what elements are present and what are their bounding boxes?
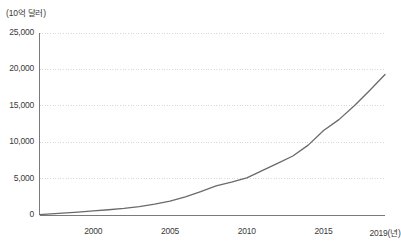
x-axis-tick-label: 2010 (238, 226, 256, 236)
y-axis-tick-label: 0 (0, 209, 34, 219)
data-line-group (40, 75, 386, 215)
y-axis-tick-label: 20,000 (0, 63, 34, 73)
gridlines-group (40, 33, 386, 179)
y-axis-tick-label: 25,000 (0, 27, 34, 37)
x-axis-tick-label: 2005 (161, 226, 179, 236)
data-series-line (40, 75, 386, 215)
y-axis-tick-label: 15,000 (0, 100, 34, 110)
y-axis-tick-label: 5,000 (0, 173, 34, 183)
x-axis-tick-label: 2000 (84, 226, 102, 236)
x-axis-tick-label: 2015 (315, 226, 333, 236)
y-axis-tick-label: 10,000 (0, 136, 34, 146)
x-axis-tick-label: 2019(년) (369, 226, 400, 238)
